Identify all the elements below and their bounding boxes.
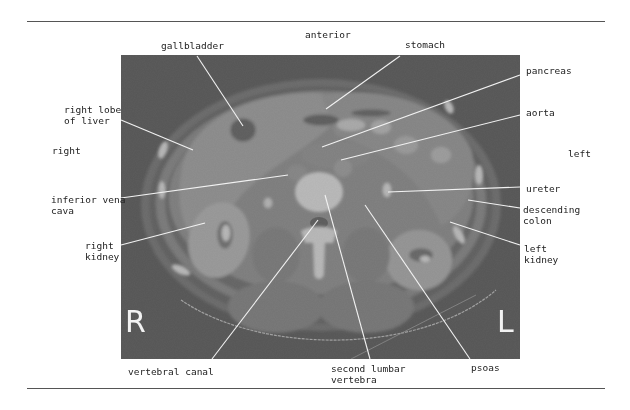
- label-vertebral-canal: vertebral canal: [128, 366, 214, 377]
- label-anterior: anterior: [305, 29, 351, 40]
- label-second-lumbar-vertebra: second lumbar vertebra: [331, 363, 405, 385]
- label-right-kidney: right kidney: [85, 240, 119, 262]
- left-marker: L: [497, 304, 514, 339]
- label-inferior-vena-cava: inferior vena cava: [51, 194, 125, 216]
- label-aorta: aorta: [526, 107, 555, 118]
- top-rule: [27, 21, 605, 22]
- label-pancreas: pancreas: [526, 65, 572, 76]
- label-descending-colon: descending colon: [523, 204, 580, 226]
- label-stomach: stomach: [405, 39, 445, 50]
- bottom-rule: [27, 388, 605, 389]
- label-right: right: [52, 145, 81, 156]
- label-ureter: ureter: [526, 183, 560, 194]
- ct-scan-image: R L: [121, 55, 520, 359]
- label-left-kidney: left kidney: [524, 243, 558, 265]
- label-gallbladder: gallbladder: [161, 40, 224, 51]
- label-left: left: [568, 148, 591, 159]
- label-psoas: psoas: [471, 362, 500, 373]
- right-marker: R: [125, 304, 146, 339]
- label-right-lobe-of-liver: right lobe of liver: [64, 104, 121, 126]
